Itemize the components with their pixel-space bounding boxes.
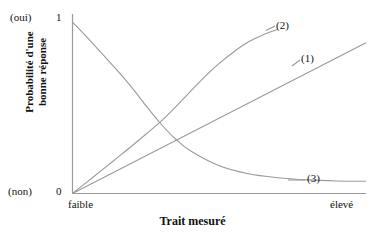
curve-label-1: (1) — [301, 52, 314, 64]
curve-1-leader-line — [292, 60, 300, 66]
x-axis-right-tick-label: élevé — [330, 198, 353, 210]
x-axis-title: Trait mesuré — [0, 214, 385, 229]
y-axis-title-line-1: Probabilité d'une — [23, 31, 36, 112]
curve-series-1 — [73, 43, 367, 194]
curve-label-2: (2) — [276, 19, 289, 31]
curve-series-3 — [73, 22, 367, 181]
curve-label-3: (3) — [307, 172, 320, 184]
y-axis-top-annotation: (oui) — [10, 11, 31, 23]
chart-plot-area — [0, 0, 385, 240]
curve-2-leader-line — [266, 26, 275, 31]
chart-figure: Probabilité d'une bonne réponse (oui) 1 … — [0, 0, 385, 240]
y-axis-top-tick-label: 1 — [56, 11, 62, 23]
curve-series-2 — [73, 29, 278, 193]
y-axis-title-line-2: bonne réponse — [36, 38, 49, 106]
y-axis-bottom-annotation: (non) — [8, 185, 32, 197]
x-axis-left-tick-label: faible — [68, 198, 93, 210]
y-axis-bottom-tick-label: 0 — [56, 185, 62, 197]
